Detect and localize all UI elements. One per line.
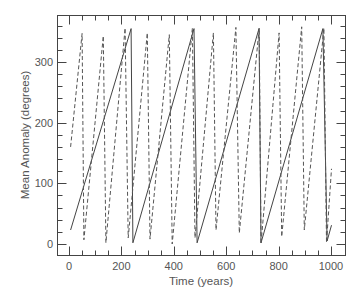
- data-series: [71, 27, 332, 244]
- y-tick-label: 300: [35, 56, 53, 68]
- x-axis-title: Time (years): [169, 275, 233, 287]
- y-tick-label: 100: [35, 177, 53, 189]
- x-tick-label: 800: [269, 260, 287, 272]
- x-tick-label: 200: [112, 260, 130, 272]
- y-axis-tick-labels: 0100200300: [35, 56, 53, 250]
- series-solid-line: [71, 29, 332, 243]
- y-axis-title: Mean Anomaly (degrees): [19, 71, 31, 200]
- y-tick-label: 200: [35, 117, 53, 129]
- mean-anomaly-chart: 02004006008001000 0100200300 Time (years…: [0, 0, 363, 299]
- x-tick-label: 600: [217, 260, 235, 272]
- y-tick-label: 0: [47, 238, 53, 250]
- x-axis-tick-labels: 02004006008001000: [66, 260, 343, 272]
- x-tick-label: 0: [66, 260, 72, 272]
- x-tick-label: 1000: [319, 260, 343, 272]
- x-tick-label: 400: [165, 260, 183, 272]
